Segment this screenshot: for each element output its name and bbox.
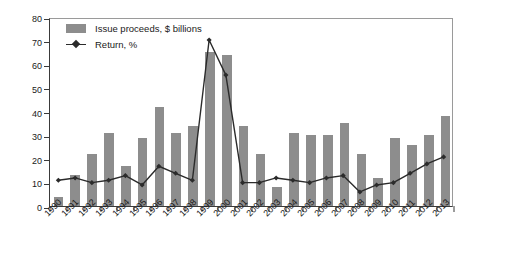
y-axis-tick: 20: [32, 156, 49, 165]
line-diamond-swatch-icon: [66, 40, 86, 49]
y-axis-tick: 10: [32, 180, 49, 189]
return-data-point: [274, 175, 279, 180]
return-data-point: [106, 178, 111, 183]
legend-item-issue-proceeds: Issue proceeds, $ billions: [66, 23, 202, 33]
y-tick-mark: [44, 160, 49, 161]
return-data-point: [73, 175, 78, 180]
y-axis-tick: 80: [32, 15, 49, 24]
y-tick-mark: [44, 184, 49, 185]
return-data-point: [240, 180, 245, 185]
y-tick-mark: [44, 42, 49, 43]
return-data-point: [290, 178, 295, 183]
legend: Issue proceeds, $ billions Return, %: [66, 23, 202, 55]
return-line: [58, 40, 443, 192]
return-data-point: [307, 180, 312, 185]
y-axis-tick: 60: [32, 62, 49, 71]
y-tick-mark: [44, 113, 49, 114]
y-tick-mark: [44, 89, 49, 90]
return-data-point: [190, 178, 195, 183]
return-data-point: [441, 154, 446, 159]
y-axis-tick: 50: [32, 85, 49, 94]
y-axis-tick: 40: [32, 109, 49, 118]
bar-swatch-icon: [66, 24, 86, 33]
return-data-point: [223, 73, 228, 78]
return-data-point: [374, 182, 379, 187]
legend-label-return: Return, %: [95, 39, 137, 50]
return-data-point: [257, 180, 262, 185]
y-tick-mark: [44, 137, 49, 138]
y-tick-mark: [44, 66, 49, 67]
legend-item-return: Return, %: [66, 39, 202, 49]
y-axis-tick: 30: [32, 133, 49, 142]
y-axis-tick: 70: [32, 38, 49, 47]
legend-label-issue-proceeds: Issue proceeds, $ billions: [95, 23, 202, 34]
chart-figure: 01020304050607080 1990199119921993199419…: [0, 0, 507, 263]
return-data-point: [207, 37, 212, 42]
return-data-point: [56, 178, 61, 183]
x-tick-mark: [454, 206, 455, 212]
return-data-point: [89, 180, 94, 185]
return-data-point: [173, 171, 178, 176]
return-data-point: [324, 175, 329, 180]
y-tick-mark: [44, 19, 49, 20]
